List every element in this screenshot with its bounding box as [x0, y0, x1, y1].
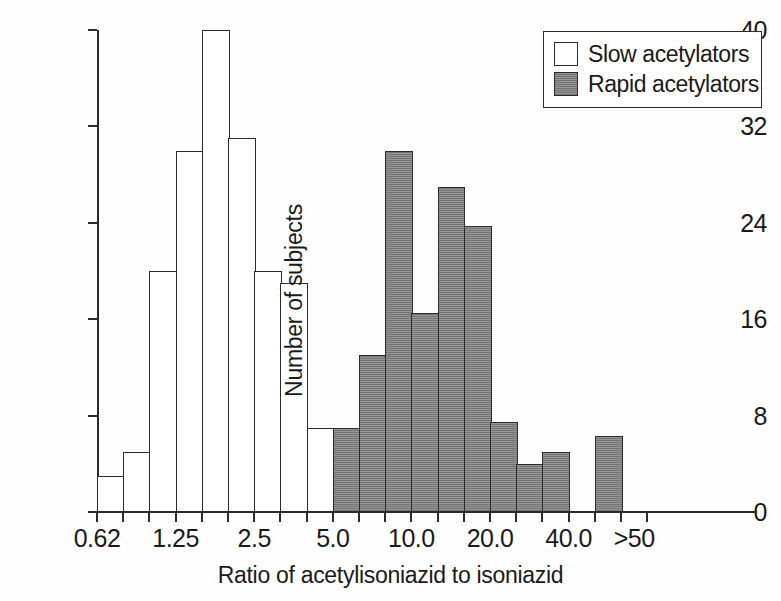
x-tick-mark — [122, 513, 124, 522]
legend-item-slow[interactable]: Slow acetylators — [554, 39, 751, 69]
x-tick-label: 1.25 — [152, 524, 199, 553]
x-tick-mark — [620, 513, 622, 522]
histogram-bar — [464, 226, 492, 512]
x-tick-mark — [594, 513, 596, 522]
histogram-bar — [202, 30, 230, 512]
x-tick-mark — [437, 513, 439, 522]
histogram-bar — [307, 428, 335, 512]
x-tick-label: 10.0 — [388, 524, 435, 553]
histogram-bar — [333, 428, 361, 512]
x-tick-mark — [279, 513, 281, 522]
legend-item-rapid[interactable]: Rapid acetylators — [554, 69, 751, 99]
histogram-bar — [385, 151, 413, 513]
x-tick-mark — [489, 513, 491, 522]
y-tick-mark — [88, 318, 97, 320]
histogram-bar — [97, 476, 125, 512]
histogram-bar — [254, 271, 282, 512]
x-tick-label: 20.0 — [467, 524, 514, 553]
histogram-bar — [411, 313, 439, 512]
histogram-bar — [280, 283, 308, 512]
x-tick-mark — [253, 513, 255, 522]
x-tick-mark — [463, 513, 465, 522]
histogram-bar — [438, 187, 466, 512]
x-tick-mark — [568, 513, 570, 522]
histogram-bar — [228, 138, 256, 512]
x-tick-mark — [358, 513, 360, 522]
histogram-bar — [176, 151, 204, 513]
x-tick-mark — [201, 513, 203, 522]
legend-swatch-rapid-icon — [554, 72, 578, 96]
histogram-figure: 0816243240 0.621.252.55.010.020.040.0>50… — [0, 0, 781, 601]
histogram-bar — [359, 355, 387, 512]
y-tick-mark — [88, 222, 97, 224]
x-tick-label: 40.0 — [545, 524, 592, 553]
x-tick-mark — [515, 513, 517, 522]
x-tick-mark — [384, 513, 386, 522]
x-axis-title: Ratio of acetylisoniazid to isoniazid — [0, 562, 781, 589]
x-tick-mark — [175, 513, 177, 522]
y-tick-label: 16 — [740, 305, 767, 334]
histogram-bar — [542, 452, 570, 512]
y-tick-mark — [88, 415, 97, 417]
y-tick-label: 8 — [754, 401, 767, 430]
legend: Slow acetylators Rapid acetylators — [543, 31, 762, 108]
legend-swatch-slow-icon — [554, 42, 578, 66]
x-tick-mark — [148, 513, 150, 522]
y-tick-mark — [88, 29, 97, 31]
y-tick-mark — [88, 125, 97, 127]
x-tick-mark — [96, 513, 98, 522]
x-tick-mark — [332, 513, 334, 522]
histogram-bar — [490, 422, 518, 512]
x-tick-mark — [541, 513, 543, 522]
x-tick-label: 0.62 — [74, 524, 121, 553]
x-tick-mark — [306, 513, 308, 522]
legend-label-rapid: Rapid acetylators — [588, 71, 759, 98]
x-tick-label: 2.5 — [238, 524, 271, 553]
x-tick-mark — [227, 513, 229, 522]
legend-label-slow: Slow acetylators — [588, 41, 749, 68]
x-tick-mark — [410, 513, 412, 522]
y-tick-label: 32 — [740, 112, 767, 141]
histogram-bar — [595, 436, 623, 512]
histogram-bar — [516, 464, 544, 512]
y-tick-label: 24 — [740, 208, 767, 237]
x-tick-label: >50 — [614, 524, 655, 553]
x-tick-label: 5.0 — [316, 524, 349, 553]
histogram-bar — [123, 452, 151, 512]
histogram-bar — [149, 271, 177, 512]
x-tick-mark — [646, 513, 648, 522]
